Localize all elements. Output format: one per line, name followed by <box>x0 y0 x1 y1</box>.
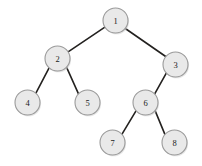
node-circle-5[interactable] <box>75 90 100 115</box>
tree-edge-1-2 <box>68 27 105 52</box>
node-circle-3[interactable] <box>163 52 188 77</box>
tree-edge-3-6 <box>155 73 167 94</box>
binary-tree-figure: 12345678 <box>0 0 202 166</box>
node-circle-7[interactable] <box>100 130 125 155</box>
tree-node-1[interactable]: 1 <box>103 8 129 34</box>
node-circle-1[interactable] <box>103 8 128 33</box>
tree-edge-2-4 <box>36 68 49 93</box>
node-circle-4[interactable] <box>15 90 40 115</box>
tree-node-4[interactable]: 4 <box>15 90 41 116</box>
tree-node-3[interactable]: 3 <box>163 52 189 78</box>
edges-layer <box>36 27 166 134</box>
node-circle-6[interactable] <box>133 90 158 115</box>
tree-edge-2-5 <box>67 67 79 94</box>
node-circle-8[interactable] <box>162 130 187 155</box>
tree-edge-6-7 <box>122 111 136 134</box>
tree-node-5[interactable]: 5 <box>75 90 101 116</box>
tree-edge-6-8 <box>155 111 165 134</box>
tree-node-7[interactable]: 7 <box>100 130 126 156</box>
tree-node-8[interactable]: 8 <box>162 130 188 156</box>
tree-edge-1-3 <box>125 29 165 57</box>
tree-node-6[interactable]: 6 <box>133 90 159 116</box>
node-circle-2[interactable] <box>45 46 70 71</box>
tree-canvas: 12345678 <box>0 0 202 166</box>
